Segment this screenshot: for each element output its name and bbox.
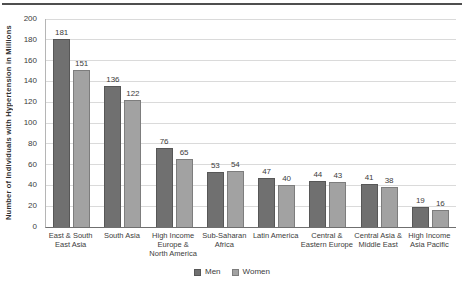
- gridline: [46, 39, 456, 40]
- y-tick-label: 200: [12, 15, 37, 23]
- legend-item-women: Women: [232, 268, 270, 276]
- legend-label-women: Women: [243, 268, 270, 276]
- bar-value-label: 65: [180, 149, 189, 157]
- legend-swatch-women: [232, 269, 239, 276]
- bar-women-0: [73, 70, 90, 227]
- y-tick-label: 20: [12, 202, 37, 210]
- bar-value-label: 16: [436, 200, 445, 208]
- bar-men-5: [309, 181, 326, 227]
- y-tick-label: 180: [12, 36, 37, 44]
- gridline: [46, 19, 456, 20]
- top-divider: [2, 3, 462, 5]
- legend-label-men: Men: [205, 268, 221, 276]
- bar-men-4: [258, 178, 275, 227]
- x-axis-labels: East & SouthEast AsiaSouth AsiaHigh Inco…: [45, 231, 455, 265]
- bar-value-label: 122: [126, 90, 139, 98]
- bar-value-label: 136: [106, 76, 119, 84]
- bar-value-label: 40: [282, 175, 291, 183]
- bar-men-7: [412, 207, 429, 227]
- bar-value-label: 19: [416, 197, 425, 205]
- y-tick-label: 120: [12, 98, 37, 106]
- y-tick-label: 140: [12, 77, 37, 85]
- bar-women-6: [381, 187, 398, 227]
- bar-value-label: 181: [55, 29, 68, 37]
- bar-men-3: [207, 172, 224, 227]
- bar-men-0: [53, 39, 70, 227]
- bar-women-1: [124, 100, 141, 227]
- y-tick-label: 40: [12, 181, 37, 189]
- legend: MenWomen: [0, 268, 464, 276]
- bar-men-6: [361, 184, 378, 227]
- bar-value-label: 44: [313, 171, 322, 179]
- x-axis-label: High IncomeAsia Pacific: [399, 231, 459, 249]
- legend-item-men: Men: [194, 268, 221, 276]
- bar-value-label: 41: [365, 174, 374, 182]
- plot-area: 181136765347444119151122655440433816: [45, 19, 456, 228]
- hypertension-chart-figure: Number of Individuals with Hypertension …: [0, 0, 464, 292]
- legend-swatch-men: [194, 269, 201, 276]
- y-tick-label: 100: [12, 119, 37, 127]
- bar-value-label: 151: [75, 60, 88, 68]
- bar-women-4: [278, 185, 295, 227]
- y-tick-label: 60: [12, 161, 37, 169]
- gridline: [46, 60, 456, 61]
- bar-value-label: 76: [160, 138, 169, 146]
- bar-value-label: 43: [333, 172, 342, 180]
- y-tick-label: 160: [12, 57, 37, 65]
- y-tick-label: 80: [12, 140, 37, 148]
- bar-women-7: [432, 210, 449, 227]
- bar-value-label: 53: [211, 162, 220, 170]
- bar-men-1: [104, 86, 121, 227]
- bar-women-3: [227, 171, 244, 227]
- bar-women-5: [329, 182, 346, 227]
- bar-value-label: 38: [385, 177, 394, 185]
- bar-value-label: 47: [262, 168, 271, 176]
- y-axis-ticks: 020406080100120140160180200: [12, 0, 40, 292]
- y-tick-label: 0: [12, 223, 37, 231]
- bar-value-label: 54: [231, 161, 240, 169]
- bar-women-2: [176, 159, 193, 227]
- bar-men-2: [156, 148, 173, 227]
